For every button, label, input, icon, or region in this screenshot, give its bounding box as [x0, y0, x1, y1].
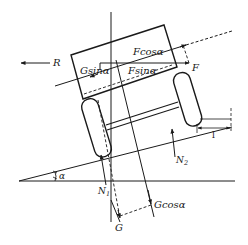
r-label: R: [52, 57, 61, 68]
fcos-arrow: [180, 45, 186, 47]
fsin-label: Fsinα: [127, 65, 157, 76]
gcos-arrow: [148, 190, 151, 204]
n2-label: N2: [175, 155, 188, 167]
right-wheel: [171, 71, 203, 129]
vehicle-body: [71, 25, 177, 99]
gcos-label: Gcosα: [154, 199, 186, 210]
axle-line-top: [106, 102, 178, 125]
dimension-l-label: l: [212, 130, 215, 140]
f-label: F: [191, 62, 200, 73]
n1-label: N1: [97, 186, 110, 198]
gsin-label: Gsinα: [80, 65, 110, 76]
fcos-label: Fcosα: [132, 46, 164, 57]
n2-force-arrow: [172, 129, 175, 157]
g-to-gcos-dashed: [120, 205, 151, 216]
alpha-label: α: [59, 171, 65, 181]
vehicle-slope-force-diagram: α R N1 N2 l: [0, 0, 248, 245]
left-wheel: [80, 97, 114, 159]
g-label: G: [115, 222, 123, 233]
fcos-line-dashed-extension: [186, 31, 232, 45]
axle-line-bottom: [107, 107, 179, 130]
slope-line: [19, 127, 232, 181]
alpha-angle-arc: [55, 172, 56, 181]
f-projection-dashed: [183, 45, 189, 63]
